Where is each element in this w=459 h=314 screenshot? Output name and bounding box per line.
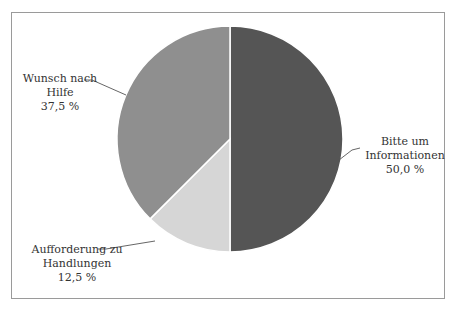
label-value: 50,0 % (355, 163, 455, 177)
pie-slices (117, 26, 343, 252)
label-text: Informationen (355, 149, 455, 163)
label-handlungen: Aufforderung zu Handlungen 12,5 % (22, 243, 132, 285)
label-text: Hilfe (20, 86, 100, 100)
label-text: Bitte um (355, 135, 455, 149)
pie-slice-bitte-um-informationen (230, 26, 343, 252)
label-informationen: Bitte um Informationen 50,0 % (355, 135, 455, 177)
label-value: 37,5 % (20, 100, 100, 114)
label-text: Aufforderung zu (22, 243, 132, 257)
label-hilfe: Wunsch nach Hilfe 37,5 % (20, 72, 100, 114)
label-text: Wunsch nach (20, 72, 100, 86)
label-value: 12,5 % (22, 271, 132, 285)
label-text: Handlungen (22, 257, 132, 271)
